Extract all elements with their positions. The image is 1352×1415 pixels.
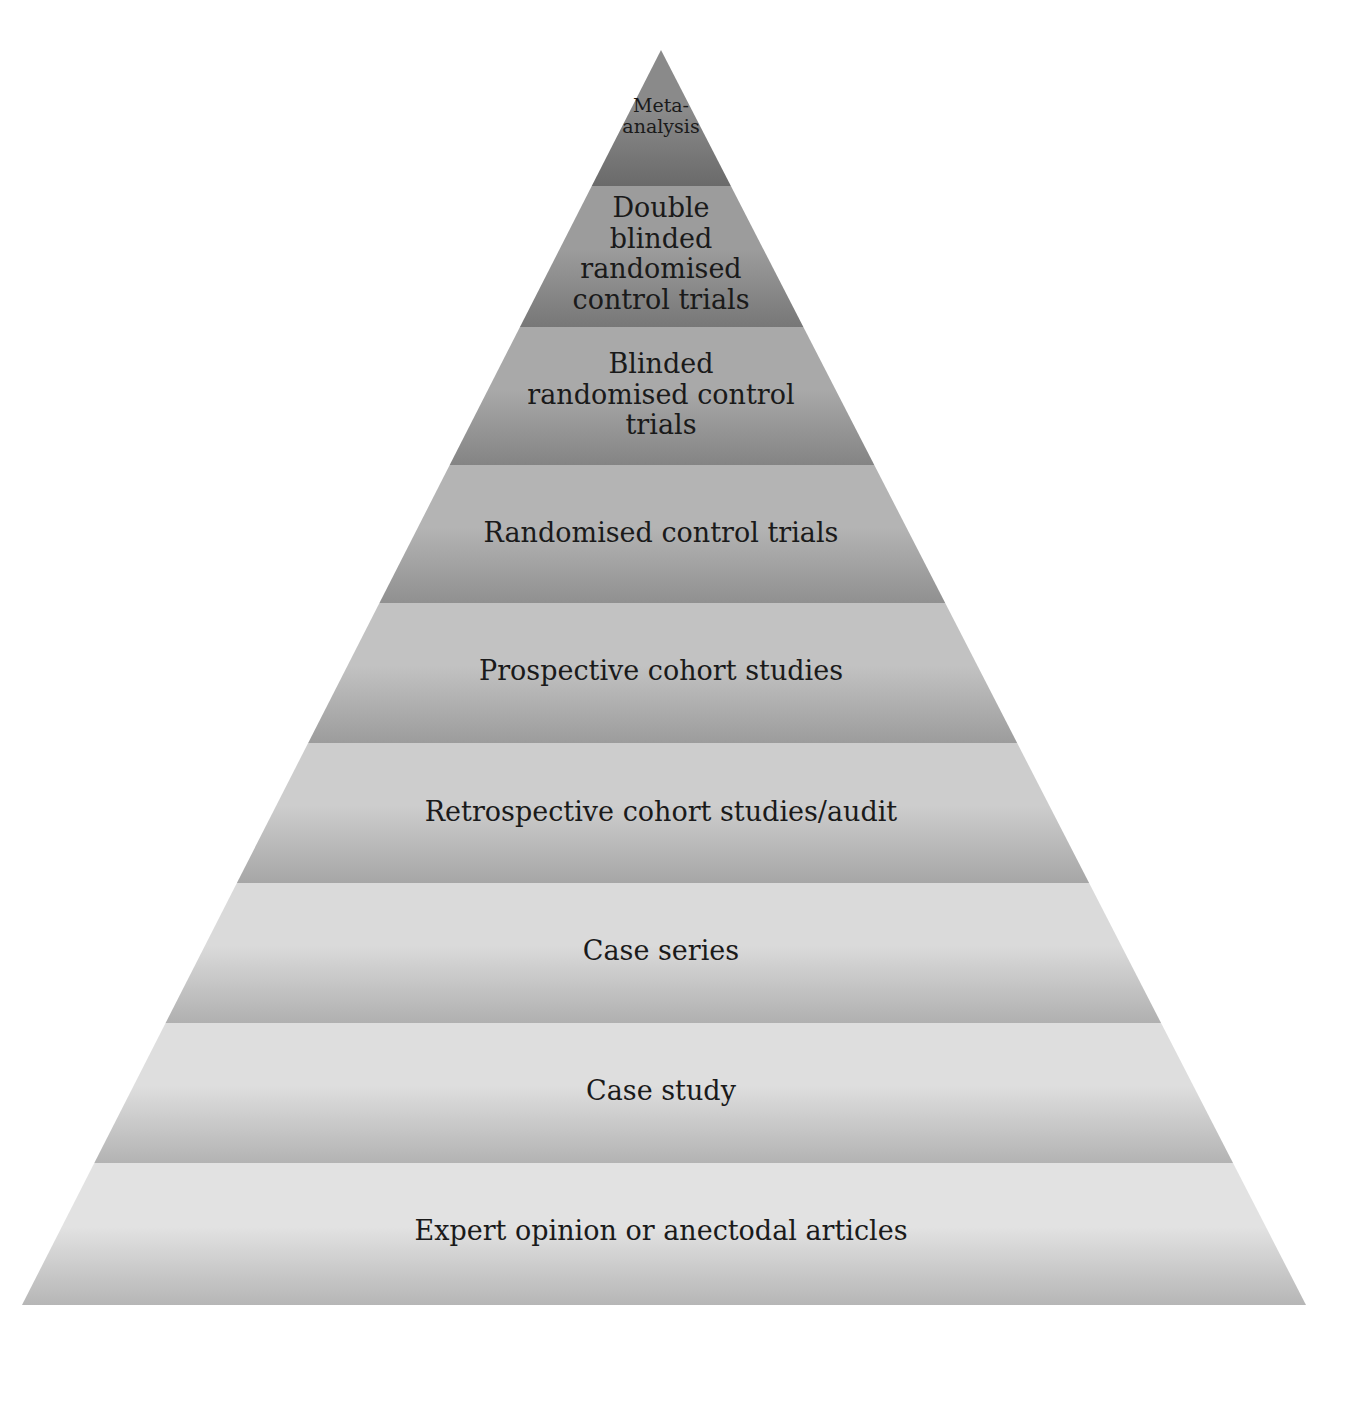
label-line: randomised control <box>527 380 794 411</box>
label-line: Randomised control trials <box>484 518 839 549</box>
label-line: Case study <box>586 1076 736 1107</box>
pyramid-level-label: Case series <box>583 936 739 967</box>
pyramid-level-label: Meta-analysis <box>622 95 699 138</box>
label-line: control trials <box>573 285 750 316</box>
pyramid-level-label: Expert opinion or anectodal articles <box>414 1216 907 1247</box>
pyramid-level-label: Prospective cohort studies <box>479 656 843 687</box>
pyramid-level-label: Randomised control trials <box>484 518 839 549</box>
label-line: blinded <box>573 224 750 255</box>
label-line: trials <box>527 410 794 441</box>
pyramid-level-label: Doubleblindedrandomisedcontrol trials <box>573 193 750 315</box>
label-line: Meta- <box>622 95 699 116</box>
label-line: Retrospective cohort studies/audit <box>425 797 897 828</box>
pyramid-level-label: Retrospective cohort studies/audit <box>425 797 897 828</box>
evidence-pyramid: Meta-analysisDoubleblindedrandomisedcont… <box>0 0 1352 1415</box>
label-line: Blinded <box>527 349 794 380</box>
label-line: analysis <box>622 116 699 137</box>
label-line: Expert opinion or anectodal articles <box>414 1216 907 1247</box>
label-line: Double <box>573 193 750 224</box>
label-line: randomised <box>573 254 750 285</box>
label-line: Prospective cohort studies <box>479 656 843 687</box>
pyramid-level-label: Case study <box>586 1076 736 1107</box>
pyramid-level-label: Blindedrandomised controltrials <box>527 349 794 441</box>
label-line: Case series <box>583 936 739 967</box>
